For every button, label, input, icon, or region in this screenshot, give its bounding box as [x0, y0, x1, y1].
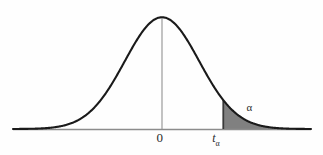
x-axis-tick-label-critical-value: tα [212, 132, 220, 147]
x-axis-tick-label-zero: 0 [157, 131, 164, 144]
critical-value-subscript: α [216, 139, 220, 148]
tail-area-label-alpha: α [247, 102, 253, 113]
normal-curve-figure: 0 tα α [0, 0, 323, 155]
